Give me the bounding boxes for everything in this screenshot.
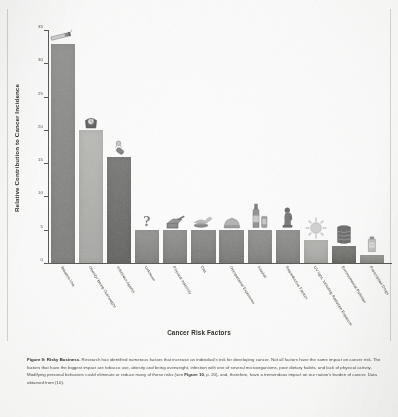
x-tick-label: Prescription Drugs xyxy=(369,265,391,296)
bar xyxy=(163,230,187,263)
question-mark-icon: ? xyxy=(141,213,153,229)
bar-group xyxy=(49,31,77,263)
y-tick-label: 20 xyxy=(28,124,43,129)
y-tick-label: 35 xyxy=(28,24,43,29)
bar-group xyxy=(105,31,133,263)
caption-label: Figure 9: Risky Business. xyxy=(27,357,80,362)
bar-series: ? xyxy=(49,31,386,263)
cigarette-icon xyxy=(50,29,76,43)
exercise-equipment-icon xyxy=(165,214,185,229)
y-tick-label: 10 xyxy=(28,190,43,195)
bar-group xyxy=(161,31,189,263)
scale-icon xyxy=(84,115,98,129)
bar-group xyxy=(274,31,302,263)
x-tick-label: Occupational Exposures xyxy=(228,265,256,305)
bar-group xyxy=(217,31,245,263)
svg-text:?: ? xyxy=(144,213,152,229)
x-axis-labels: Tobacco UseObesity/ Being OverweightInfe… xyxy=(49,265,387,327)
bar-group xyxy=(77,31,105,263)
wine-bottle-icon xyxy=(250,203,270,229)
x-tick-label: Reproductive Factors xyxy=(285,265,310,300)
bar xyxy=(219,230,243,263)
burger-icon xyxy=(193,215,213,229)
pill-bottle-icon xyxy=(365,236,379,254)
x-tick-label: Physical Inactivity xyxy=(172,265,193,295)
bar xyxy=(248,230,272,263)
bar xyxy=(304,240,328,263)
bar-group: ? xyxy=(133,31,161,263)
bar-group xyxy=(330,31,358,263)
bar-group xyxy=(358,31,386,263)
y-tick-mark xyxy=(44,263,49,264)
y-tick-label: 15 xyxy=(28,157,43,162)
x-tick-label: Environmental Pollution xyxy=(341,265,368,304)
y-tick-label: 25 xyxy=(28,90,43,95)
x-axis-title: Cancer Risk Factors xyxy=(8,329,390,336)
x-axis-line xyxy=(48,263,392,264)
bar xyxy=(191,230,215,263)
x-tick-label: Unknown xyxy=(144,265,157,282)
virus-icon xyxy=(111,140,128,156)
bar: ? xyxy=(135,230,159,263)
pregnant-figure-icon xyxy=(280,207,295,229)
bar xyxy=(79,130,103,263)
waste-barrel-icon xyxy=(336,225,352,245)
x-tick-label: Diet xyxy=(200,265,208,274)
bar xyxy=(360,255,384,263)
bar xyxy=(332,246,356,263)
bar xyxy=(51,44,75,263)
bar-group xyxy=(302,31,330,263)
bar-group xyxy=(246,31,274,263)
bar xyxy=(107,157,131,263)
sun-icon xyxy=(305,217,327,239)
figure-caption: Figure 9: Risky Business. Research has i… xyxy=(27,356,388,387)
y-tick-label: 30 xyxy=(28,57,43,62)
hard-hat-icon xyxy=(223,216,240,229)
caption-reference: Figure 10 xyxy=(184,372,204,377)
bar-group xyxy=(189,31,217,263)
y-axis-title: Relative Contribution to Cancer Incidenc… xyxy=(13,83,20,211)
y-tick-label: 5 xyxy=(28,224,43,229)
x-tick-label: Obesity/ Being Overweight xyxy=(88,265,118,308)
y-tick-label: 0 xyxy=(28,257,43,262)
chart-plot-area: Relative Contribution to Cancer Incidenc… xyxy=(48,31,386,264)
x-tick-label: Tobacco Use xyxy=(59,265,76,287)
figure-frame: Relative Contribution to Cancer Incidenc… xyxy=(7,9,391,341)
bar xyxy=(276,230,300,263)
x-tick-label: Alcohol xyxy=(257,265,268,279)
x-tick-label: Infectious Agents xyxy=(116,265,137,294)
